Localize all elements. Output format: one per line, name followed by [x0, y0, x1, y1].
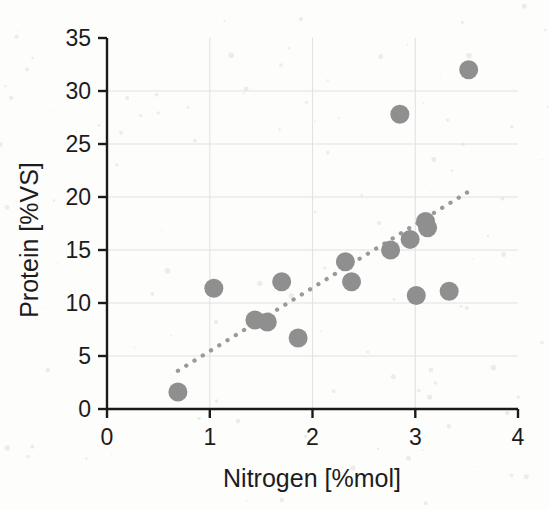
- texture-speck: [451, 169, 454, 172]
- texture-speck: [425, 185, 426, 186]
- texture-speck: [279, 63, 283, 67]
- texture-speck: [466, 53, 472, 59]
- texture-speck: [165, 268, 171, 274]
- texture-speck: [0, 142, 3, 147]
- x-tick-label: 3: [409, 424, 422, 450]
- texture-speck: [53, 111, 54, 112]
- texture-speck: [423, 102, 425, 104]
- texture-speck: [327, 79, 329, 81]
- x-axis-title: Nitrogen [%mol]: [223, 464, 401, 492]
- texture-speck: [461, 21, 464, 24]
- texture-speck: [487, 235, 490, 238]
- texture-speck: [215, 399, 218, 402]
- data-point: [381, 241, 400, 260]
- texture-speck: [314, 120, 316, 122]
- texture-speck: [417, 389, 421, 393]
- texture-speck: [524, 474, 529, 479]
- texture-speck: [501, 252, 506, 257]
- texture-speck: [25, 67, 29, 71]
- x-tick-label: 1: [203, 424, 216, 450]
- texture-speck: [17, 31, 18, 32]
- y-tick-label: 10: [65, 290, 91, 316]
- texture-speck: [139, 114, 142, 117]
- texture-speck: [280, 498, 284, 502]
- y-tick-label: 15: [65, 237, 91, 263]
- texture-speck: [257, 281, 262, 286]
- texture-speck: [57, 263, 58, 264]
- texture-speck: [431, 157, 436, 162]
- texture-speck: [278, 128, 280, 130]
- texture-speck: [366, 350, 369, 353]
- texture-speck: [246, 500, 248, 502]
- texture-speck: [170, 335, 172, 337]
- x-tick-label: 4: [512, 424, 525, 450]
- texture-speck: [406, 456, 411, 461]
- texture-speck: [541, 159, 543, 161]
- texture-speck: [332, 389, 336, 393]
- texture-speck: [338, 117, 340, 119]
- texture-speck: [4, 85, 7, 88]
- x-tick-label: 0: [101, 424, 114, 450]
- data-point: [342, 272, 361, 291]
- texture-speck: [471, 258, 473, 260]
- x-axis-ticks: [107, 409, 518, 418]
- texture-speck: [125, 96, 129, 100]
- texture-speck: [111, 454, 113, 456]
- y-axis-title: Protein [%VS]: [15, 162, 43, 318]
- texture-speck: [510, 125, 513, 128]
- y-tick-label: 0: [78, 396, 91, 422]
- texture-speck: [427, 395, 432, 400]
- texture-speck: [314, 210, 317, 213]
- texture-speck: [424, 501, 428, 505]
- y-axis-ticks: [98, 38, 107, 409]
- texture-speck: [477, 466, 479, 468]
- texture-speck: [46, 368, 50, 372]
- data-point: [407, 286, 426, 305]
- texture-speck: [157, 111, 160, 114]
- texture-speck: [223, 20, 225, 22]
- data-point: [289, 328, 308, 347]
- texture-speck: [522, 4, 527, 9]
- y-axis-tick-labels: 05101520253035: [65, 25, 91, 422]
- texture-speck: [377, 447, 380, 450]
- texture-speck: [377, 221, 381, 225]
- texture-speck: [243, 92, 245, 94]
- texture-speck: [446, 118, 450, 122]
- texture-speck: [326, 151, 330, 155]
- texture-speck: [460, 305, 463, 308]
- y-tick-label: 5: [78, 343, 91, 369]
- data-point: [258, 313, 277, 332]
- texture-speck: [517, 396, 520, 399]
- texture-speck: [214, 320, 218, 324]
- chart-canvas: 05101520253035 01234 Nitrogen [%mol] Pro…: [0, 0, 549, 510]
- y-tick-label: 20: [65, 184, 91, 210]
- texture-speck: [119, 131, 123, 135]
- texture-speck: [5, 445, 10, 450]
- texture-speck: [151, 292, 155, 296]
- x-axis-tick-labels: 01234: [101, 424, 525, 450]
- texture-speck: [85, 457, 88, 460]
- texture-speck: [45, 308, 46, 309]
- texture-speck: [440, 74, 441, 75]
- data-point: [440, 282, 459, 301]
- texture-speck: [447, 424, 451, 428]
- texture-speck: [134, 347, 136, 349]
- texture-speck: [53, 199, 56, 202]
- texture-speck: [30, 445, 34, 449]
- data-points: [168, 60, 478, 401]
- data-point: [168, 383, 187, 402]
- texture-speck: [407, 44, 409, 46]
- texture-speck: [491, 365, 496, 370]
- texture-speck: [9, 96, 14, 101]
- texture-speck: [193, 139, 197, 143]
- gridlines: [107, 38, 518, 409]
- data-point: [272, 272, 291, 291]
- texture-speck: [392, 298, 395, 301]
- x-tick-label: 2: [306, 424, 319, 450]
- texture-speck: [115, 163, 118, 166]
- texture-speck: [429, 368, 434, 373]
- texture-speck: [540, 341, 544, 345]
- texture-speck: [305, 101, 308, 104]
- texture-speck: [161, 230, 163, 232]
- y-tick-label: 35: [65, 25, 91, 51]
